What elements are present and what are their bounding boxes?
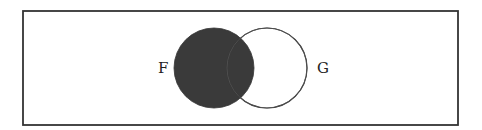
- venn-diagram: F G: [0, 0, 482, 130]
- set-f-circle: [174, 28, 254, 108]
- set-g-label: G: [317, 59, 329, 77]
- set-f-label: F: [158, 59, 168, 77]
